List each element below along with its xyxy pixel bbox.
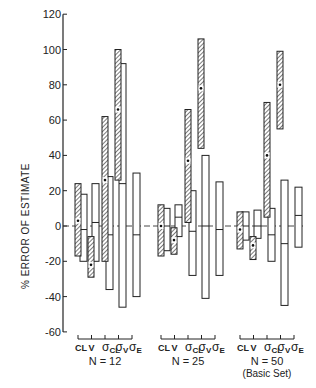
- x-group: CLVσCLσVσEN = 12: [75, 335, 142, 367]
- y-tick-label: 20: [49, 185, 61, 197]
- x-axis-groups: CLVσCLσVσEN = 12CLVσCLσVσEN = 25CLVσCLσV…: [75, 335, 304, 379]
- bar-group: [158, 39, 223, 298]
- hatched-range-bar: [185, 110, 191, 223]
- group-label: N = 12: [89, 355, 122, 367]
- y-tick-label: 40: [49, 149, 61, 161]
- mean-dot: [187, 159, 190, 162]
- mean-dot: [104, 179, 107, 182]
- mean-dot: [239, 228, 242, 231]
- group-label: N = 25: [172, 355, 205, 367]
- y-tick-label: 100: [43, 44, 61, 56]
- x-category-label: σV: [116, 340, 129, 355]
- y-axis: -60-40-20020406080100120: [43, 8, 67, 338]
- x-category-label: V: [172, 343, 178, 353]
- hatched-range-bar: [102, 117, 108, 262]
- mean-dot: [279, 84, 282, 87]
- y-tick-label: -40: [45, 291, 61, 303]
- x-category-label: σE: [212, 340, 225, 355]
- y-axis-label: % ERROR OF ESTIMATE: [20, 163, 31, 289]
- x-category-label: CL: [237, 343, 249, 353]
- mean-dot: [117, 108, 120, 111]
- hatched-range-bar: [158, 205, 164, 256]
- x-category-label: CL: [158, 343, 170, 353]
- y-tick-label: -20: [45, 255, 61, 267]
- bar-group: [237, 51, 302, 305]
- hatched-range-bar: [198, 39, 204, 148]
- hatched-range-bar: [115, 50, 121, 181]
- x-group: CLVσCLσVσEN = 25: [158, 335, 225, 367]
- hatched-range-bar: [264, 102, 270, 217]
- hatched-range-bar: [277, 51, 283, 129]
- open-range-bar: [216, 182, 223, 276]
- x-group: CLVσCLσVσEN = 50(Basic Set): [237, 335, 304, 379]
- mean-dot: [200, 87, 203, 90]
- x-category-label: CL: [75, 343, 87, 353]
- x-category-label: V: [251, 343, 257, 353]
- open-range-bar: [295, 187, 302, 247]
- mean-dot: [77, 219, 80, 222]
- x-category-label: σE: [129, 340, 142, 355]
- mean-dot: [173, 239, 176, 242]
- y-tick-label: 0: [55, 220, 61, 232]
- y-tick-label: 120: [43, 8, 61, 20]
- group-label: N = 50: [251, 355, 284, 367]
- hatched-range-bar: [88, 237, 94, 278]
- mean-dot: [266, 154, 269, 157]
- y-tick-label: -60: [45, 326, 61, 338]
- x-category-label: σE: [291, 340, 304, 355]
- mean-dot: [160, 225, 163, 228]
- x-category-label: V: [89, 343, 95, 353]
- x-category-label: σV: [278, 340, 291, 355]
- open-range-bar: [254, 210, 261, 238]
- y-tick-label: 60: [49, 114, 61, 126]
- mean-dot: [252, 244, 255, 247]
- bar-group: [75, 50, 140, 308]
- x-category-label: σV: [199, 340, 212, 355]
- y-tick-label: 80: [49, 79, 61, 91]
- range-bars: [75, 39, 302, 307]
- error-range-chart: -60-40-20020406080100120 % ERROR OF ESTI…: [0, 0, 316, 388]
- open-range-bar: [281, 180, 288, 305]
- group-sublabel: (Basic Set): [243, 368, 292, 379]
- mean-dot: [90, 264, 93, 267]
- open-range-bar: [202, 155, 209, 298]
